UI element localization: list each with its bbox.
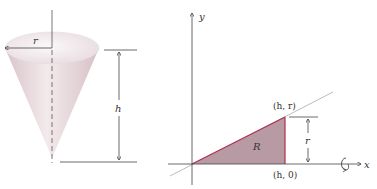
point-h-r-label: (h, r): [273, 101, 296, 111]
cone-figure: r h: [5, 10, 137, 163]
point-h-0-label: (h, 0): [273, 170, 297, 180]
y-axis-label: y: [198, 11, 205, 22]
x-axis-label: x: [364, 159, 370, 170]
region-label: R: [252, 141, 261, 152]
height-label: h: [115, 103, 121, 114]
side-label: r: [305, 135, 311, 146]
figure-canvas: r h y x R (h, r) (h, 0) r: [0, 0, 377, 189]
region-figure: y x R (h, r) (h, 0) r: [168, 11, 370, 185]
